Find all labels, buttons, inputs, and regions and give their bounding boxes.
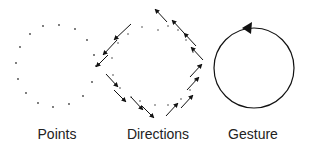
directions-label: Directions	[108, 126, 208, 142]
direction-arrow-icon	[106, 74, 118, 87]
direction-arrow-icon	[172, 20, 184, 33]
point-dot	[68, 103, 70, 105]
points-panel	[15, 24, 97, 108]
direction-dot	[189, 89, 191, 91]
direction-dot	[157, 29, 159, 31]
point-dot	[86, 39, 88, 41]
point-dot	[25, 92, 27, 94]
direction-arrow-icon	[96, 55, 108, 67]
point-dot	[52, 106, 54, 108]
direction-dot	[141, 26, 143, 28]
direction-arrow-icon	[142, 106, 154, 118]
direction-arrow-icon	[103, 40, 117, 55]
direction-dot	[192, 51, 194, 53]
direction-dot	[127, 33, 129, 35]
point-dot	[37, 102, 39, 104]
point-dot	[74, 28, 76, 30]
gesture-label: Gesture	[203, 126, 303, 142]
direction-dot	[167, 25, 169, 27]
direction-dot	[197, 65, 199, 67]
points-label: Points	[7, 126, 107, 142]
direction-dot	[154, 104, 156, 106]
direction-arrow-icon	[155, 9, 167, 22]
direction-dot	[185, 39, 187, 41]
direction-arrow-icon	[114, 90, 126, 102]
point-dot	[17, 78, 19, 80]
gesture-arrowhead-icon	[242, 22, 252, 34]
direction-dot	[119, 87, 121, 89]
direction-dot	[180, 98, 182, 100]
point-dot	[91, 81, 93, 83]
direction-dot	[117, 42, 119, 44]
direction-arrow-icon	[131, 97, 143, 110]
direction-dot	[112, 74, 114, 76]
point-dot	[42, 25, 44, 27]
direction-dot	[167, 104, 169, 106]
gesture-panel	[214, 22, 294, 108]
directions-panel	[96, 9, 203, 118]
direction-dot	[111, 57, 113, 59]
direction-arrow-icon	[190, 64, 202, 77]
direction-dot	[177, 29, 179, 31]
point-dot	[19, 46, 21, 48]
direction-arrow-icon	[191, 47, 203, 60]
point-dot	[58, 24, 60, 26]
point-dot	[82, 95, 84, 97]
direction-arrow-icon	[181, 95, 193, 108]
gesture-circle	[214, 28, 294, 108]
direction-dot	[139, 100, 141, 102]
point-dot	[93, 54, 95, 56]
direction-arrow-icon	[114, 24, 131, 40]
point-dot	[15, 62, 17, 64]
direction-arrow-icon	[187, 77, 199, 90]
point-dot	[29, 33, 31, 35]
